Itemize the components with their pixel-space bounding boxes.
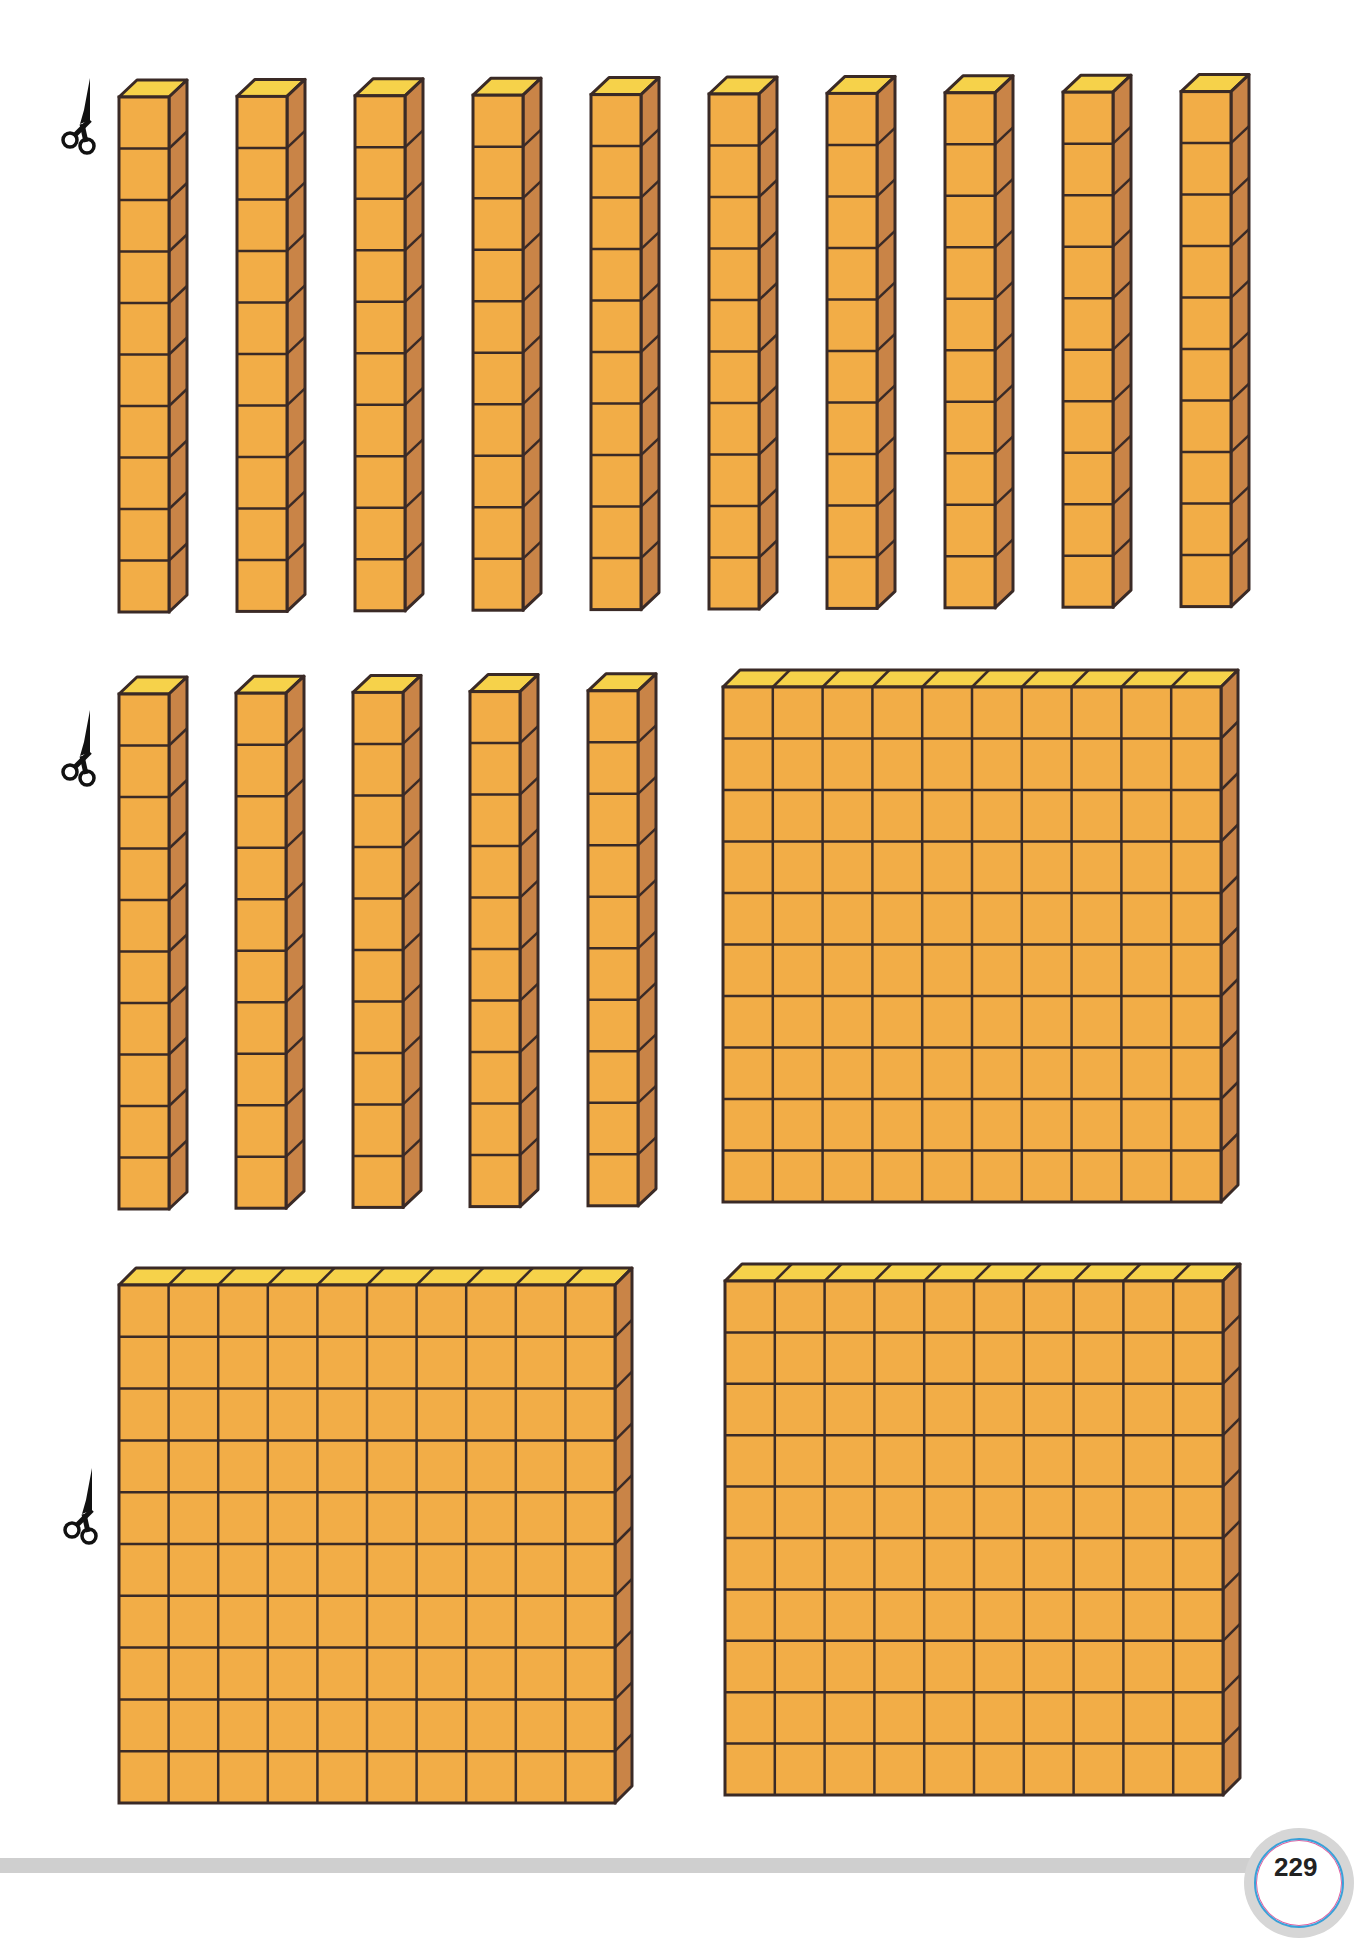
ten-rod — [827, 76, 895, 608]
scissors-icon — [63, 710, 94, 785]
ten-rod — [119, 80, 187, 612]
ten-rod — [353, 675, 421, 1207]
ten-rod — [588, 674, 656, 1206]
ten-rod — [237, 79, 305, 611]
hundred-flat — [723, 670, 1238, 1202]
ten-rod — [945, 76, 1013, 608]
blocks-layer — [119, 75, 1249, 1803]
ten-rod — [591, 78, 659, 610]
ten-rod — [236, 676, 304, 1208]
page-number-circle: 229 — [1254, 1838, 1344, 1928]
hundred-flat — [725, 1264, 1240, 1795]
ten-rod — [709, 77, 777, 609]
page-number: 229 — [1274, 1852, 1317, 1883]
ten-rod — [470, 675, 538, 1207]
scissors-icon — [63, 78, 94, 153]
hundred-flat — [119, 1268, 632, 1803]
ten-rod — [119, 677, 187, 1209]
scissors-icon — [65, 1468, 96, 1543]
ten-rod — [1181, 75, 1249, 607]
ten-rod — [1063, 75, 1131, 607]
page-footer-band — [0, 1858, 1316, 1873]
page-number-badge: 229 — [1244, 1828, 1354, 1938]
ten-rod — [473, 78, 541, 610]
ten-rod — [355, 79, 423, 611]
